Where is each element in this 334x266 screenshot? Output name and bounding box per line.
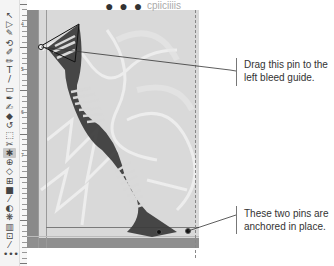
ruler-tick: [20, 134, 27, 135]
ruler-tick: [20, 47, 27, 48]
tools-panel: ↖▷✎⟲✐✏T/▭✒✍◆↺⬚✂✱⊕◇⊞■⁄◐❋▥⊡⁄•••: [0, 0, 19, 266]
document-canvas[interactable]: ● ● ● cpiiciiiis: [27, 0, 230, 266]
dna-artwork[interactable]: [27, 0, 230, 266]
more-tools[interactable]: •••: [3, 249, 16, 259]
callout-text: left bleed guide.: [244, 71, 328, 84]
callout-bar: [236, 58, 237, 86]
callout-bar: [236, 206, 237, 234]
ruler-tick: [20, 177, 27, 178]
callout-leader-line: [188, 217, 230, 231]
dna-rung: [127, 190, 141, 196]
puppet-pin-anchored[interactable]: [157, 230, 162, 235]
callout-text: These two pins are: [244, 207, 329, 220]
callout-drag-pin: Drag this pin to the left bleed guide.: [244, 58, 328, 84]
ruler-tick: [20, 90, 27, 91]
dna-rung: [129, 196, 143, 202]
dna-rung: [121, 176, 137, 184]
dna-rung: [79, 108, 101, 110]
ruler-tick: [20, 220, 27, 221]
callout-text: Drag this pin to the: [244, 58, 328, 71]
callout-text: anchored in place.: [244, 220, 329, 233]
callout-anchored-pins: These two pins are anchored in place.: [244, 207, 329, 233]
ruler-tick: [20, 4, 27, 5]
ruler-tick: [20, 263, 27, 264]
dna-rung: [117, 170, 135, 178]
